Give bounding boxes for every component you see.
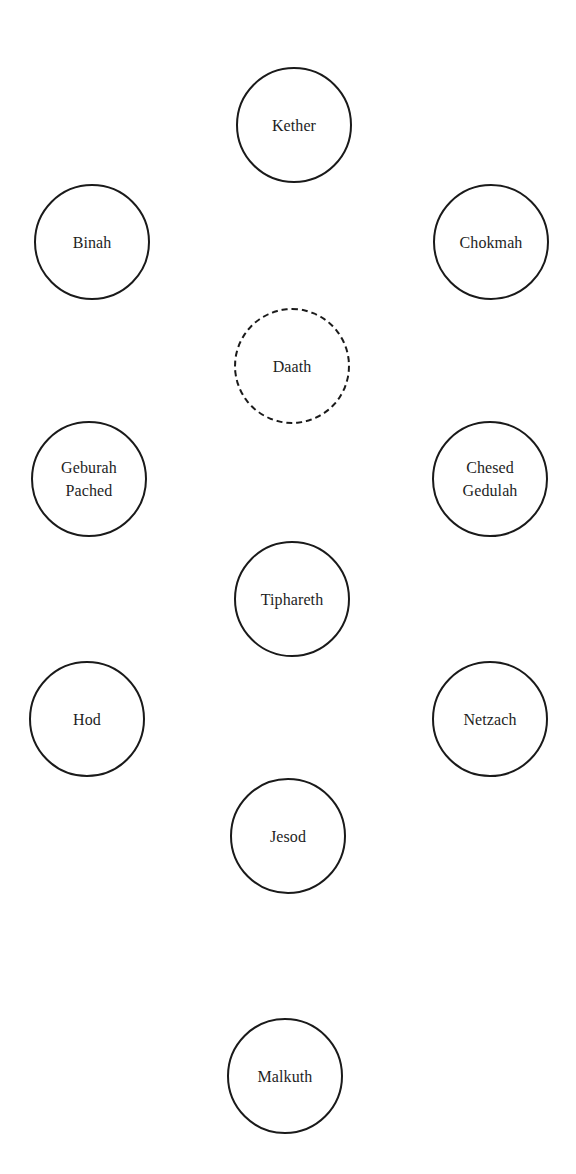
sephirah-label: Binah: [73, 231, 112, 254]
sephirah-daath: Daath: [234, 308, 350, 424]
sephirah-tiphareth: Tiphareth: [234, 541, 350, 657]
sephirah-kether: Kether: [236, 67, 352, 183]
sephirah-label: Kether: [272, 114, 316, 137]
sephirah-jesod: Jesod: [230, 778, 346, 894]
sephirah-label: Daath: [273, 355, 312, 378]
tree-of-life-diagram: Kether Binah Chokmah Daath Geburah Pache…: [0, 0, 576, 1174]
sephirah-chokmah: Chokmah: [433, 184, 549, 300]
sephirah-chesed: Chesed Gedulah: [432, 421, 548, 537]
sephirah-label-line-1: Chesed: [466, 456, 514, 479]
sephirah-label: Jesod: [270, 825, 306, 848]
sephirah-label: Chokmah: [460, 231, 523, 254]
sephirah-label: Malkuth: [258, 1065, 313, 1088]
sephirah-hod: Hod: [29, 661, 145, 777]
sephirah-netzach: Netzach: [432, 661, 548, 777]
sephirah-label: Tiphareth: [261, 588, 324, 611]
sephirah-binah: Binah: [34, 184, 150, 300]
sephirah-label: Hod: [73, 708, 101, 731]
sephirah-label-line-2: Gedulah: [463, 479, 518, 502]
sephirah-geburah: Geburah Pached: [31, 421, 147, 537]
sephirah-label: Netzach: [463, 708, 516, 731]
sephirah-label-line-1: Geburah: [61, 456, 117, 479]
sephirah-label-line-2: Pached: [66, 479, 113, 502]
sephirah-malkuth: Malkuth: [227, 1018, 343, 1134]
